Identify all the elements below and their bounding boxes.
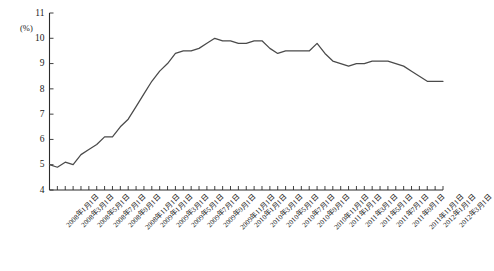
data-series-line (50, 38, 444, 167)
y-axis-tick-label: 10 (35, 33, 45, 43)
y-axis-tick-label: 8 (40, 84, 45, 94)
y-axis-tick-label: 5 (40, 159, 45, 169)
y-axis-tick-label: 4 (40, 185, 45, 195)
y-axis-unit-label: (%) (20, 23, 33, 33)
y-axis-tick-label: 6 (40, 134, 45, 144)
x-axis-tick-label: 2012年3月1日 (458, 194, 493, 229)
y-axis-tick-label: 7 (40, 109, 45, 119)
y-axis-tick-label: 11 (35, 8, 44, 18)
y-axis-tick-label: 9 (40, 58, 45, 68)
